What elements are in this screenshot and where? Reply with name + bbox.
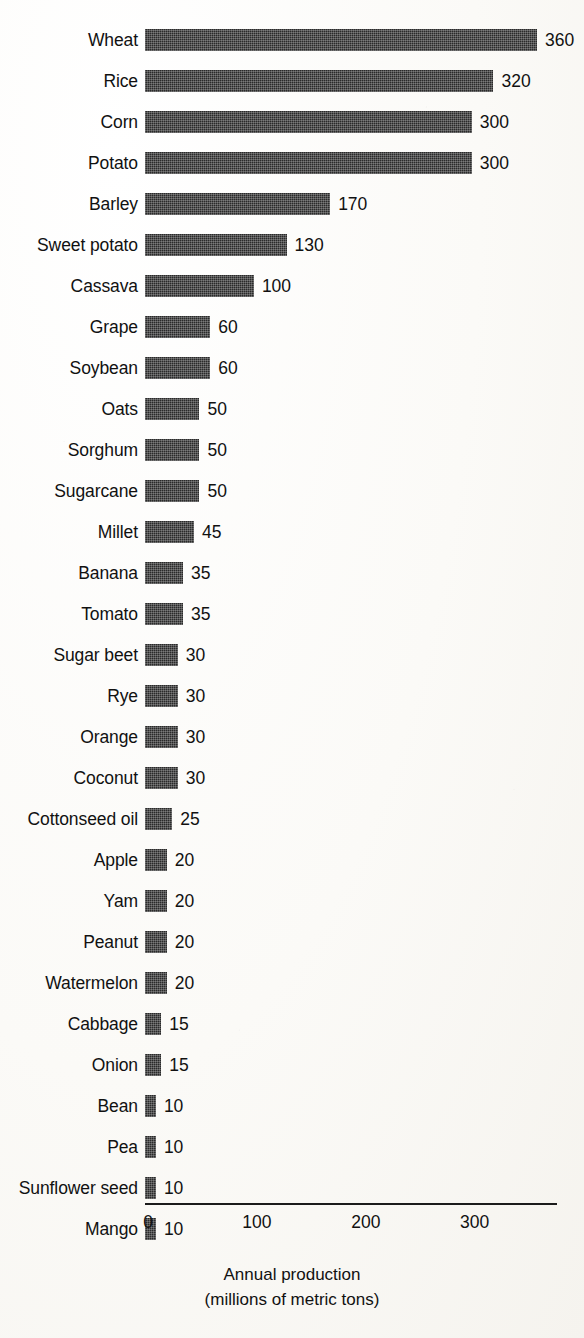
bar [145,439,199,461]
bar [145,521,194,543]
bar-category-label: Corn [0,107,138,137]
bar [145,29,537,51]
bar-row: Sugar beet30 [0,640,584,670]
bar [145,316,210,338]
bar [145,1013,161,1035]
bar-value-label: 20 [175,927,194,957]
bar-row: Bean10 [0,1091,584,1121]
bar [145,1095,156,1117]
bar-value-label: 10 [164,1173,183,1203]
bar [145,111,472,133]
bar [145,808,172,830]
bar-category-label: Mango [0,1214,138,1244]
bar [145,152,472,174]
bar-category-label: Banana [0,558,138,588]
x-axis-caption-line-1: Annual production [0,1262,584,1287]
bar [145,398,199,420]
bar-category-label: Millet [0,517,138,547]
bar-row: Corn300 [0,107,584,137]
x-axis-caption-line-2: (millions of metric tons) [0,1287,584,1312]
bar-value-label: 130 [295,230,324,260]
bar-value-label: 15 [169,1009,188,1039]
bar-row: Wheat360 [0,25,584,55]
bar-category-label: Pea [0,1132,138,1162]
bar-row: Tomato35 [0,599,584,629]
bar [145,931,167,953]
bar [145,234,287,256]
bar-category-label: Sunflower seed [0,1173,138,1203]
plot-area: Wheat360Rice320Corn300Potato300Barley170… [0,0,584,1205]
bar-row: Potato300 [0,148,584,178]
bar-row: Rice320 [0,66,584,96]
bar-category-label: Rice [0,66,138,96]
bar-value-label: 360 [545,25,574,55]
bar-row: Grape60 [0,312,584,342]
bar-chart-figure: Wheat360Rice320Corn300Potato300Barley170… [0,0,584,1338]
x-tick-label: 300 [460,1210,489,1234]
bar-category-label: Tomato [0,599,138,629]
bar-value-label: 300 [480,107,509,137]
bar [145,70,493,92]
bar [145,562,183,584]
bar-category-label: Sorghum [0,435,138,465]
bar-category-label: Wheat [0,25,138,55]
x-tick-label: 200 [351,1210,380,1234]
bar-category-label: Peanut [0,927,138,957]
bar [145,275,254,297]
bar-row: Coconut30 [0,763,584,793]
bar-value-label: 320 [501,66,530,96]
bar-value-label: 50 [207,394,226,424]
x-tick-label: 100 [242,1210,271,1234]
bar [145,603,183,625]
bar-value-label: 30 [186,640,205,670]
bar [145,480,199,502]
bar-value-label: 20 [175,886,194,916]
bar-value-label: 10 [164,1091,183,1121]
bar-value-label: 25 [180,804,199,834]
bar-value-label: 30 [186,763,205,793]
bar-value-label: 30 [186,722,205,752]
bar-category-label: Sugar beet [0,640,138,670]
bar-category-label: Grape [0,312,138,342]
bar [145,357,210,379]
bar-row: Sugarcane50 [0,476,584,506]
bar-row: Onion15 [0,1050,584,1080]
bar-category-label: Apple [0,845,138,875]
bar-value-label: 50 [207,435,226,465]
bar-category-label: Potato [0,148,138,178]
bar-category-label: Soybean [0,353,138,383]
bar-category-label: Orange [0,722,138,752]
bar-category-label: Watermelon [0,968,138,998]
bar-value-label: 60 [218,312,237,342]
bar [145,767,178,789]
bar-row: Apple20 [0,845,584,875]
bar-row: Pea10 [0,1132,584,1162]
bar-category-label: Cassava [0,271,138,301]
bar-row: Orange30 [0,722,584,752]
bar-value-label: 10 [164,1132,183,1162]
bar [145,972,167,994]
bar-value-label: 35 [191,558,210,588]
bar-row: Cottonseed oil25 [0,804,584,834]
bar-category-label: Sweet potato [0,230,138,260]
bar-row: Millet45 [0,517,584,547]
bar-row: Watermelon20 [0,968,584,998]
bar-row: Yam20 [0,886,584,916]
bar-row: Mango10 [0,1214,584,1244]
bar-category-label: Onion [0,1050,138,1080]
bar-category-label: Rye [0,681,138,711]
bar-value-label: 15 [169,1050,188,1080]
x-axis-caption: Annual production (millions of metric to… [0,1262,584,1312]
bar-value-label: 50 [207,476,226,506]
bar-value-label: 30 [186,681,205,711]
bar-row: Rye30 [0,681,584,711]
bar-category-label: Sugarcane [0,476,138,506]
bar [145,890,167,912]
bar [145,685,178,707]
bar-value-label: 10 [164,1214,183,1244]
bar [145,849,167,871]
bar [145,1177,156,1199]
bar-row: Barley170 [0,189,584,219]
bar-row: Soybean60 [0,353,584,383]
bar-category-label: Cottonseed oil [0,804,138,834]
